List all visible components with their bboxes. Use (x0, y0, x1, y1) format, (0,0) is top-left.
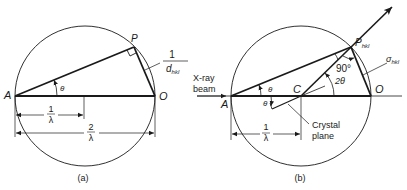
angle-arc-at-p (335, 54, 338, 60)
right-angle-marker-a (127, 50, 136, 56)
two-theta-label: 2θ (334, 76, 345, 86)
crystal-plane-extension (301, 86, 325, 96)
point-p-label-a: P (131, 33, 138, 44)
crystal-plane-line (272, 96, 301, 109)
theta-label-a: θ (60, 84, 65, 93)
two-theta-arc (325, 73, 334, 96)
radius-denominator-b: λ (264, 133, 269, 143)
caption-b: (b) (295, 173, 306, 183)
panel-b: X-ray beam A C O Phkl θ θ 2θ 90° σhkl Cr… (193, 7, 402, 183)
theta-lower-label-b: θ (263, 99, 268, 108)
diameter-denominator-a: λ (89, 133, 94, 143)
d-fraction-numerator: 1 (169, 49, 175, 60)
theta-arc-a (54, 80, 57, 96)
chord-po-a (134, 47, 155, 96)
crystal-plane-leader (288, 104, 309, 124)
crystal-plane-label-line2: plane (312, 131, 334, 141)
point-p-label-b: Phkl (355, 37, 370, 49)
point-a-label-b: A (220, 98, 228, 110)
sigma-label: σhkl (386, 54, 400, 65)
radius-numerator-a: 1 (48, 104, 53, 114)
right-angle-label-b: 90° (336, 63, 351, 74)
chord-po-b (351, 47, 371, 96)
diameter-numerator-a: 2 (88, 122, 93, 132)
theta-arc-upper-b (259, 85, 261, 96)
point-o-label-b: O (375, 83, 384, 95)
d-fraction-denominator: dhkl (166, 63, 180, 75)
beam-label-line2: beam (193, 84, 216, 94)
radius-denominator-a: λ (49, 115, 54, 125)
point-c-label-b: C (293, 83, 301, 95)
crystal-plane-label-line1: Crystal (312, 120, 340, 130)
panel-a: A P O θ 1 dhkl 1 λ 2 λ (a) (3, 26, 188, 183)
chord-ap-a (15, 47, 134, 96)
ewald-sphere-diagram: A P O θ 1 dhkl 1 λ 2 λ (a) (0, 0, 407, 190)
sigma-leader-line (363, 63, 387, 75)
beam-label-line1: X-ray (193, 73, 215, 83)
radius-numerator-b: 1 (263, 122, 268, 132)
right-angle-arc-b (343, 56, 354, 59)
theta-upper-label-b: θ (268, 85, 273, 94)
point-o-label-a: O (159, 90, 168, 102)
caption-a: (a) (78, 173, 89, 183)
point-a-label-a: A (3, 89, 11, 101)
